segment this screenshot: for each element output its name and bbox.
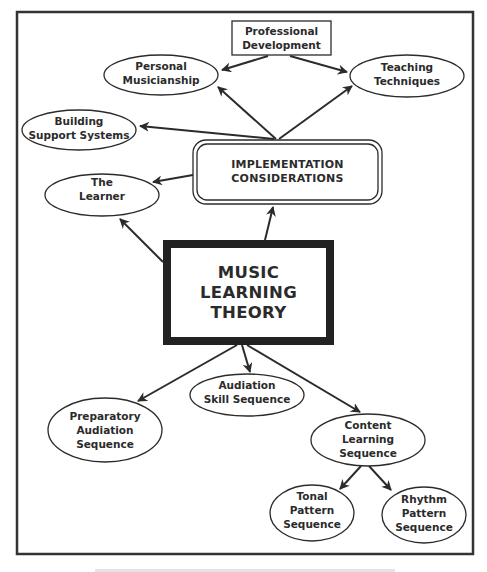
node-label-line: Sequence <box>395 521 453 533</box>
node-label-line: Tonal <box>296 490 327 502</box>
node-preparatory-audiation-sequence: Preparatory Audiation Sequence <box>48 398 162 462</box>
node-label-line: Professional <box>245 25 318 37</box>
node-label-line: Sequence <box>283 518 341 530</box>
node-content-learning-sequence: Content Learning Sequence <box>311 414 425 466</box>
node-label-line: Building <box>55 115 104 127</box>
node-label-line: Audiation <box>76 424 133 436</box>
node-building-support-systems: Building Support Systems <box>22 110 136 150</box>
node-label-line: Audiation <box>218 379 275 391</box>
node-label-line: CONSIDERATIONS <box>231 172 343 185</box>
node-implementation-considerations: IMPLEMENTATION CONSIDERATIONS <box>193 140 382 204</box>
node-label-line: Support Systems <box>28 129 129 141</box>
node-teaching-techniques: Teaching Techniques <box>350 55 464 97</box>
node-label-line: Preparatory <box>69 410 140 422</box>
node-label-line: IMPLEMENTATION <box>231 158 344 171</box>
node-label-line: Content <box>344 419 391 431</box>
node-title-line: LEARNING <box>200 283 297 302</box>
node-label-line: Rhythm <box>401 493 447 505</box>
node-the-learner: The Learner <box>45 174 159 216</box>
node-label-line: The <box>91 176 113 188</box>
node-label-line: Teaching <box>381 61 433 73</box>
node-label-line: Skill Sequence <box>204 393 291 405</box>
node-tonal-pattern-sequence: Tonal Pattern Sequence <box>270 485 354 541</box>
node-personal-musicianship: Personal Musicianship <box>104 55 218 95</box>
node-label-line: Pattern <box>402 507 446 519</box>
node-rhythm-pattern-sequence: Rhythm Pattern Sequence <box>382 487 466 543</box>
node-title-line: MUSIC <box>218 263 279 282</box>
node-label-line: Sequence <box>339 447 397 459</box>
node-label-line: Development <box>242 39 321 51</box>
node-audiation-skill-sequence: Audiation Skill Sequence <box>190 374 304 416</box>
node-label-line: Personal <box>135 60 187 72</box>
node-label-line: Sequence <box>76 438 134 450</box>
node-label-line: Learner <box>79 190 126 202</box>
node-label-line: Techniques <box>374 75 440 87</box>
node-label-line: Learning <box>342 433 394 445</box>
node-label-line: Musicianship <box>123 74 200 86</box>
node-professional-development: Professional Development <box>232 21 331 55</box>
node-label-line: Pattern <box>290 504 334 516</box>
music-learning-theory-diagram: Professional Development Personal Musici… <box>0 0 487 572</box>
node-title-line: THEORY <box>211 303 288 322</box>
node-music-learning-theory: MUSIC LEARNING THEORY <box>167 244 330 341</box>
